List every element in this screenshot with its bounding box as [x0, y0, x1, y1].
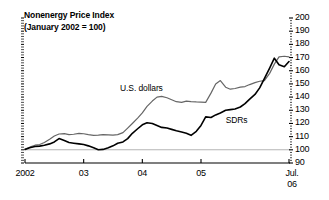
chart-title-line-2: (January 2002 = 100) [24, 22, 114, 34]
x-tick-label-line: Jul. [272, 168, 312, 179]
nonenergy-price-index-chart: Nonenergy Price Index (January 2002 = 10… [0, 0, 329, 200]
series-layer [25, 56, 289, 150]
y-tick-label-130: 130 [295, 104, 309, 114]
series-line-u-s-dollars [25, 56, 289, 149]
y-tick-label-90: 90 [295, 157, 305, 167]
y-tick-label-140: 140 [295, 91, 309, 101]
y-tick-label-190: 190 [295, 25, 309, 35]
chart-title: Nonenergy Price Index (January 2002 = 10… [24, 10, 114, 33]
chart-title-line-1: Nonenergy Price Index [24, 10, 114, 22]
series-label-sdrs: SDRs [226, 115, 248, 125]
x-tick-label-03: 03 [64, 168, 104, 179]
x-tick-label-line: 04 [122, 168, 162, 179]
x-tick-label-line: 2002 [5, 168, 45, 179]
y-tick-label-180: 180 [295, 38, 309, 48]
y-tick-label-170: 170 [295, 52, 309, 62]
y-tick-label-200: 200 [295, 12, 309, 22]
x-tick-label-04: 04 [122, 168, 162, 179]
series-line-sdrs [25, 58, 289, 150]
x-tick-label-line: 03 [64, 168, 104, 179]
x-tick-label-Jul.-06: Jul.06 [272, 168, 312, 190]
x-tick-label-line: 05 [181, 168, 221, 179]
y-tick-label-120: 120 [295, 117, 309, 127]
series-label-u-s-dollars: U.S. dollars [120, 83, 163, 93]
y-tick-label-100: 100 [295, 144, 309, 154]
y-tick-label-110: 110 [295, 131, 309, 141]
x-tick-label-05: 05 [181, 168, 221, 179]
x-tick-label-line: 06 [272, 179, 312, 190]
x-tick-label-2002: 2002 [5, 168, 45, 179]
y-tick-label-150: 150 [295, 78, 309, 88]
y-tick-label-160: 160 [295, 65, 309, 75]
